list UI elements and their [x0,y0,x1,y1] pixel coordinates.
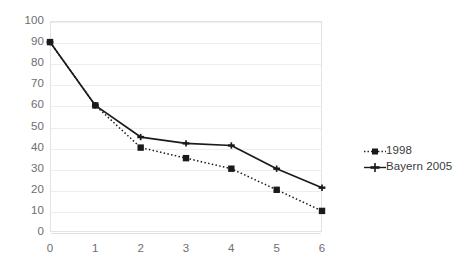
data-point-marker [273,166,280,172]
series-bayern-2005 [47,39,326,191]
series-1998 [47,39,325,214]
data-point-marker [228,142,235,148]
series-line [50,42,322,211]
legend-label-1998: 1998 [386,145,412,157]
data-point-marker [228,166,234,172]
series-layer [0,0,468,268]
legend-key-solid-plus-icon [364,160,386,173]
legend-key-dotted-square-icon [364,144,386,157]
legend-label-bayern-2005: Bayern 2005 [386,161,452,173]
data-point-marker [183,155,189,161]
data-point-marker [273,187,279,193]
data-point-marker [47,39,53,45]
data-point-marker [319,208,325,214]
line-chart: 0102030405060708090100 0123456 1998 [0,0,468,268]
data-point-marker [319,184,326,190]
data-point-marker [137,144,143,150]
data-point-marker [92,102,98,108]
legend-item-bayern-2005[interactable]: Bayern 2005 [364,159,464,174]
legend-item-1998[interactable]: 1998 [364,143,464,158]
chart-legend: 1998 Bayern 2005 [364,143,464,175]
series-line [50,42,322,188]
data-point-marker [183,140,190,146]
